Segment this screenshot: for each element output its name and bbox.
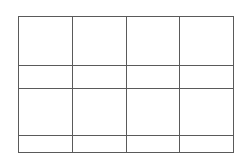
grid-cell (127, 89, 180, 136)
grid-row-4 (19, 136, 234, 153)
grid-cell (73, 66, 127, 89)
grid-cell (73, 136, 127, 153)
grid-cell (19, 136, 73, 153)
grid-row-3 (19, 89, 234, 136)
canvas (0, 0, 250, 166)
grid-cell (73, 17, 127, 66)
grid-cell (19, 66, 73, 89)
grid-row-1 (19, 17, 234, 66)
grid-cell (180, 136, 234, 153)
grid-row-2 (19, 66, 234, 89)
grid-cell (127, 66, 180, 89)
grid-cell (180, 17, 234, 66)
grid-cell (19, 17, 73, 66)
grid-cell (180, 66, 234, 89)
grid-cell (19, 89, 73, 136)
grid-cell (180, 89, 234, 136)
grid-cell (127, 17, 180, 66)
grid-cell (127, 136, 180, 153)
grid-cell (73, 89, 127, 136)
empty-grid-table (18, 16, 234, 153)
